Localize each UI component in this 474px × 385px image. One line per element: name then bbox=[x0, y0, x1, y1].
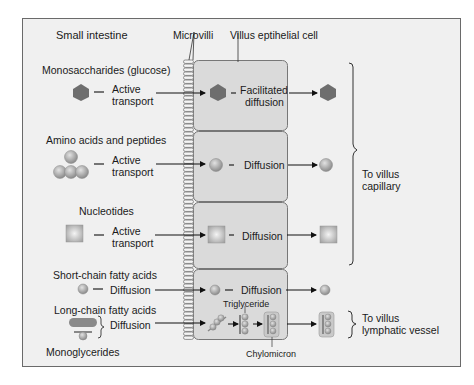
nucleotide-square-left bbox=[66, 225, 83, 242]
label-triglyceride: Triglyceride bbox=[223, 298, 269, 310]
nutrient-glucose: Monosaccharides (glucose) bbox=[42, 64, 170, 76]
intracellular-nucleotide: Diffusion bbox=[242, 230, 283, 242]
nutrient-long-chain: Long-chain fatty acids bbox=[54, 304, 156, 316]
amino-acid-out bbox=[320, 159, 333, 172]
entry-nucleotide-2: transport bbox=[112, 237, 153, 249]
scfa-left bbox=[78, 284, 88, 294]
destination-capillary-2: capillary bbox=[362, 180, 401, 192]
title-small-intestine: Small intestine bbox=[56, 29, 128, 41]
microvilli bbox=[184, 60, 194, 339]
label-chylomicron: Chylomicron bbox=[246, 348, 296, 360]
label-monoglycerides: Monoglycerides bbox=[46, 346, 120, 358]
intracellular-glucose-2: diffusion bbox=[245, 96, 284, 108]
nutrient-amino-acids: Amino acids and peptides bbox=[46, 134, 166, 146]
label-microvilli: Microvilli bbox=[173, 29, 213, 41]
entry-long-chain: Diffusion bbox=[110, 319, 151, 331]
intracellular-glucose-1: Facilitated bbox=[240, 84, 288, 96]
entry-amino-2: transport bbox=[112, 166, 153, 178]
nucleotide-square-cell bbox=[208, 226, 225, 243]
entry-nucleotide-1: Active bbox=[112, 225, 141, 237]
intracellular-amino: Diffusion bbox=[244, 159, 285, 171]
amino-acid-cell bbox=[210, 159, 223, 172]
destination-lymphatic-2: lymphatic vessel bbox=[362, 324, 439, 336]
nucleotide-square-out bbox=[320, 226, 337, 243]
entry-amino-1: Active bbox=[112, 154, 141, 166]
nutrient-scfa: Short-chain fatty acids bbox=[53, 269, 157, 281]
label-villus-cell: Villus eptihelial cell bbox=[230, 29, 318, 41]
entry-glucose-2: transport bbox=[112, 95, 153, 107]
chylomicron-out-icon bbox=[319, 312, 334, 337]
intracellular-scfa: Diffusion bbox=[241, 284, 282, 296]
scfa-cell bbox=[210, 285, 220, 295]
destination-lymphatic-1: To villus bbox=[362, 312, 399, 324]
long-chain-fatty-acid bbox=[69, 318, 97, 327]
scfa-out bbox=[320, 285, 330, 295]
monoglyceride-head bbox=[79, 332, 87, 340]
entry-scfa: Diffusion bbox=[110, 284, 151, 296]
destination-capillary-1: To villus bbox=[362, 168, 399, 180]
entry-glucose-1: Active bbox=[112, 83, 141, 95]
nutrient-nucleotides: Nucleotides bbox=[79, 205, 134, 217]
chylomicron-cell-icon bbox=[264, 312, 279, 337]
